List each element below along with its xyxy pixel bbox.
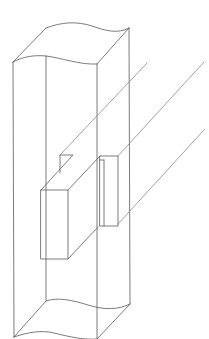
joinery-diagram [0,0,209,339]
post-top-front-edge [13,56,97,64]
beam-upper-left-edge [60,63,147,155]
post-bottom-right-edge [97,304,130,339]
post [13,23,130,339]
tenon-top-right-edge [68,156,100,190]
post-top-right-edge [97,28,129,64]
beam-upper-right-edge [118,62,204,156]
post-back-right-edge [129,28,130,304]
post-bottom-front-edge [14,332,97,339]
post-bottom-back-edge [46,299,130,308]
beam-tenon [41,62,204,259]
tenon-bottom-right-edge [68,227,98,259]
post-top-left-edge [13,28,46,62]
tenon-front-face [41,190,68,259]
diagram-svg [0,0,209,339]
post-front-left-edge [13,62,14,337]
tenon-side-block [100,156,118,226]
beam-lower-right-edge [118,130,204,224]
post-top-back-edge [46,23,129,32]
